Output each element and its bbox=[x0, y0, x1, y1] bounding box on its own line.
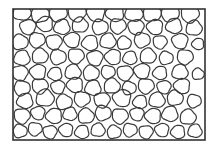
circle-loop bbox=[138, 79, 154, 95]
circle-loop bbox=[112, 109, 128, 124]
circle-loop bbox=[170, 125, 184, 138]
circle-loop bbox=[12, 66, 29, 81]
circle-loop bbox=[86, 5, 105, 22]
circle-loop bbox=[161, 106, 178, 121]
circle-loop bbox=[32, 79, 48, 94]
circle-loop bbox=[146, 19, 162, 34]
circle-loop bbox=[36, 16, 52, 31]
circle-loop bbox=[63, 107, 78, 120]
circle-loop bbox=[173, 78, 189, 93]
circle-loop bbox=[172, 64, 189, 79]
rectangle-frame bbox=[13, 9, 205, 140]
circle-packing-sketch bbox=[0, 0, 216, 155]
circle-loop bbox=[68, 5, 86, 22]
circle-loop bbox=[165, 18, 182, 33]
circle-loop bbox=[112, 89, 131, 106]
circle-loop bbox=[50, 49, 66, 65]
circle-loop bbox=[125, 4, 144, 21]
circle-loop bbox=[95, 105, 111, 121]
circle-loop bbox=[58, 123, 72, 136]
circles-group bbox=[12, 3, 204, 139]
circle-loop bbox=[171, 33, 188, 48]
circle-loop bbox=[43, 126, 57, 139]
circle-loop bbox=[74, 92, 90, 108]
circle-loop bbox=[72, 17, 88, 32]
circle-loop bbox=[133, 63, 150, 78]
circle-loop bbox=[143, 4, 161, 21]
circle-loop bbox=[123, 123, 137, 137]
circle-loop bbox=[192, 68, 204, 80]
circle-loop bbox=[29, 64, 45, 79]
circle-loop bbox=[152, 66, 166, 79]
circle-loop bbox=[139, 126, 153, 139]
circle-loop bbox=[187, 94, 201, 108]
circle-loop bbox=[68, 49, 84, 64]
circle-loop bbox=[104, 49, 120, 64]
circle-loop bbox=[91, 123, 105, 136]
circle-loop bbox=[101, 65, 115, 79]
circle-loop bbox=[12, 34, 28, 50]
circle-loop bbox=[63, 32, 80, 47]
circle-loop bbox=[13, 3, 31, 20]
circle-loop bbox=[132, 95, 146, 108]
circle-loop bbox=[159, 51, 173, 65]
circle-loop bbox=[54, 19, 71, 34]
circle-loop bbox=[81, 35, 97, 50]
circle-loop bbox=[14, 109, 30, 124]
circle-loop bbox=[65, 64, 81, 79]
circle-loop bbox=[191, 38, 203, 49]
circle-loop bbox=[13, 124, 27, 138]
circle-loop bbox=[46, 35, 62, 50]
circle-loop bbox=[123, 51, 138, 64]
circle-loop bbox=[74, 125, 88, 138]
circle-loop bbox=[87, 51, 104, 66]
circle-loop bbox=[140, 48, 156, 63]
circle-loop bbox=[45, 108, 61, 123]
circle-loop bbox=[117, 36, 131, 50]
circle-loop bbox=[154, 123, 168, 136]
circle-loop bbox=[31, 5, 49, 23]
circle-loop bbox=[14, 50, 31, 65]
circle-loop bbox=[180, 109, 196, 124]
circle-loop bbox=[107, 125, 121, 139]
circle-loop bbox=[167, 90, 183, 106]
circle-loop bbox=[177, 50, 193, 66]
circle-loop bbox=[30, 106, 45, 119]
circle-loop bbox=[186, 20, 202, 35]
circle-loop bbox=[28, 123, 42, 137]
circle-loop bbox=[83, 65, 99, 81]
circle-loop bbox=[100, 33, 116, 48]
circle-loop bbox=[153, 36, 167, 49]
circle-loop bbox=[78, 108, 94, 123]
circle-loop bbox=[130, 107, 145, 120]
circle-loop bbox=[188, 124, 203, 137]
circle-loop bbox=[117, 66, 133, 81]
circle-loop bbox=[32, 48, 48, 63]
circle-loop bbox=[47, 67, 61, 80]
circle-loop bbox=[144, 108, 160, 123]
circle-loop bbox=[51, 80, 66, 93]
